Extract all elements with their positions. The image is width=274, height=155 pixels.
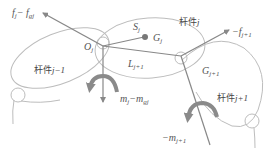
joint-o-label: Oj (84, 42, 93, 54)
link-j-plus-1-label: 杆件j+1 (217, 94, 248, 103)
link-j-label: 杆件j (179, 18, 200, 27)
force-vector-left (43, 13, 103, 46)
link-j-minus-1-label: 杆件j−1 (34, 66, 65, 75)
com-g-j-dot (142, 34, 148, 40)
com-g-label: Gj (153, 33, 162, 45)
moment-arrow-j-plus-1 (188, 103, 217, 118)
force-right-label: −fj+1 (232, 27, 252, 39)
force-vector-right (181, 30, 229, 56)
vector-l-label: Lj+1 (128, 59, 144, 71)
force-left-label: fj− fgj (12, 8, 34, 20)
moment-center-label: mj−mgj (120, 94, 149, 106)
moment-right-label: −mj+1 (162, 133, 186, 145)
vector-s-label: Sj (133, 22, 140, 34)
vector-l-j-plus-1 (103, 46, 181, 56)
joint-g-next-label: Gj+1 (202, 66, 219, 78)
